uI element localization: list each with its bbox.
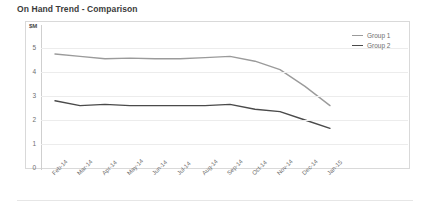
y-axis-tick-label: 5 [22, 44, 36, 51]
legend-swatch-icon [352, 45, 363, 47]
y-axis-unit-label: $M [29, 23, 37, 29]
y-axis-tick-label: 2 [22, 116, 36, 123]
bottom-divider [17, 200, 413, 201]
y-axis-tick-label: 0 [22, 164, 36, 171]
legend-item[interactable]: Group 1 [352, 32, 391, 39]
chart-card: On Hand Trend - Comparison $M 543210 Feb… [0, 0, 430, 212]
y-axis-tick-label: 4 [22, 68, 36, 75]
y-axis-tick-label: 3 [22, 92, 36, 99]
chart-legend: Group 1Group 2 [352, 32, 391, 49]
plot-area [41, 33, 408, 169]
legend-item[interactable]: Group 2 [352, 42, 391, 49]
legend-label: Group 2 [367, 42, 391, 49]
series-line [55, 54, 330, 106]
gridline [41, 72, 408, 73]
chart-lines [41, 33, 408, 169]
series-line [55, 101, 330, 129]
legend-swatch-icon [352, 35, 363, 37]
legend-label: Group 1 [367, 32, 391, 39]
gridline [41, 120, 408, 121]
y-axis-tick-label: 1 [22, 140, 36, 147]
gridline [41, 144, 408, 145]
page-title: On Hand Trend - Comparison [17, 4, 138, 14]
gridline [41, 96, 408, 97]
